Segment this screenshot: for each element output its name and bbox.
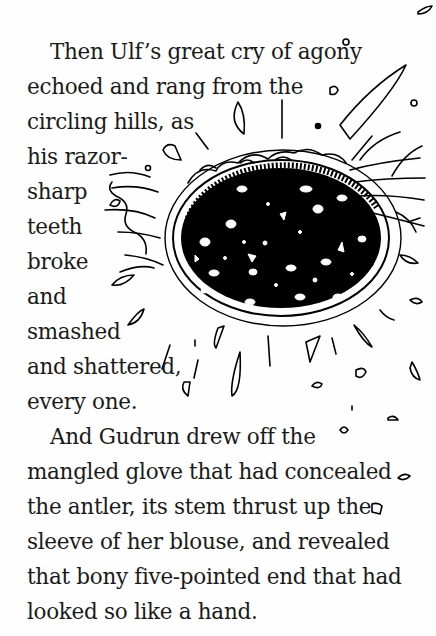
text-line: his razor- <box>27 146 128 168</box>
text-line: teeth <box>27 216 82 238</box>
text-line: And Gudrun drew off the <box>50 426 316 448</box>
text-line: echoed and rang from the <box>27 76 303 98</box>
book-page: Then Ulf’s great cry of agony echoed and… <box>0 0 436 636</box>
text-line: looked so like a hand. <box>27 601 257 623</box>
text-line: and <box>27 286 67 308</box>
text-line: circling hills, as <box>27 111 194 133</box>
text-line: broke <box>27 251 88 273</box>
text-line: sleeve of her blouse, and revealed <box>27 531 389 553</box>
text-line: sharp <box>27 181 87 203</box>
text-line: the antler, its stem thrust up the <box>27 496 371 518</box>
text-line: Then Ulf’s great cry of agony <box>50 41 362 63</box>
text-line: every one. <box>27 391 137 413</box>
text-line: mangled glove that had concealed <box>27 461 392 483</box>
text-line: that bony five-pointed end that had <box>27 566 402 588</box>
text-line: and shattered, <box>27 356 181 378</box>
text-line: smashed <box>27 321 121 343</box>
